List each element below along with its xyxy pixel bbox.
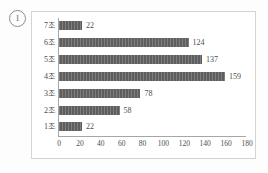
category-label: 7조	[32, 20, 55, 31]
x-tick-label: 20	[70, 139, 90, 149]
x-tick-label: 100	[153, 139, 173, 149]
bar-row: 6조124	[32, 35, 257, 51]
bar-row: 7조22	[32, 18, 257, 34]
x-tick-label: 40	[91, 139, 111, 149]
bar-value-label: 22	[86, 121, 94, 132]
bar-row: 1조22	[32, 119, 257, 135]
bar	[59, 72, 225, 81]
x-tick-label: 0	[49, 139, 69, 149]
x-axis-line	[58, 136, 246, 137]
bar-value-label: 124	[193, 37, 205, 48]
bar	[59, 21, 82, 30]
category-label: 6조	[32, 37, 55, 48]
bar-value-label: 22	[86, 20, 94, 31]
bar	[59, 122, 82, 131]
category-label: 3조	[32, 88, 55, 99]
x-tick-label: 80	[133, 139, 153, 149]
bar-row: 4조159	[32, 69, 257, 85]
x-tick-label: 140	[195, 139, 215, 149]
bar	[59, 38, 189, 47]
bar-value-label: 137	[206, 54, 218, 65]
item-number-marker: 1	[9, 10, 26, 27]
plot-area: 7조226조1245조1374조1593조782조581조22 02040608…	[32, 12, 257, 160]
chart-frame: 7조226조1245조1374조1593조782조581조22 02040608…	[31, 11, 256, 159]
bar	[59, 89, 140, 98]
category-label: 1조	[32, 121, 55, 132]
x-tick-label: 60	[112, 139, 132, 149]
x-tick-label: 160	[216, 139, 236, 149]
x-tick-label: 120	[174, 139, 194, 149]
bar-row: 2조58	[32, 103, 257, 119]
category-label: 2조	[32, 105, 55, 116]
bar-value-label: 58	[124, 105, 132, 116]
bar-value-label: 159	[229, 71, 241, 82]
bar-value-label: 78	[144, 88, 152, 99]
bar-row: 3조78	[32, 86, 257, 102]
figure-container: 1 7조226조1245조1374조1593조782조581조22 020406…	[0, 0, 268, 173]
bar	[59, 106, 120, 115]
bar	[59, 55, 202, 64]
category-label: 5조	[32, 54, 55, 65]
category-label: 4조	[32, 71, 55, 82]
x-tick-label: 180	[237, 139, 257, 149]
bar-row: 5조137	[32, 52, 257, 68]
